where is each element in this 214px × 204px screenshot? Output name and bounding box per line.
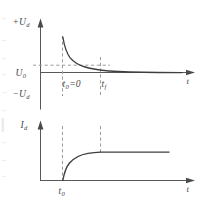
figure-container: +Ud U0 −Ud t0=0 tf t Id bbox=[0, 0, 214, 204]
voltage-t0-tick-label: t0=0 bbox=[63, 78, 81, 90]
voltage-positive-axis-label: +Ud bbox=[13, 16, 31, 28]
voltage-negative-axis-label: −Ud bbox=[13, 88, 31, 100]
voltage-tf-tick-label: tf bbox=[102, 78, 108, 90]
current-plot: Id t0 t bbox=[20, 119, 196, 197]
voltage-x-axis-arrow-icon bbox=[186, 70, 195, 76]
current-t0-tick-label: t0 bbox=[59, 185, 66, 197]
current-x-axis-arrow-icon bbox=[186, 178, 195, 184]
voltage-u0-label: U0 bbox=[16, 67, 27, 79]
current-x-axis-label: t bbox=[187, 184, 190, 194]
voltage-decay-curve bbox=[63, 37, 182, 73]
waveform-figure: +Ud U0 −Ud t0=0 tf t Id bbox=[0, 0, 214, 204]
voltage-x-axis-label: t bbox=[187, 76, 190, 86]
scan-artifact-specks bbox=[2, 18, 7, 177]
current-rise-curve bbox=[63, 152, 101, 180]
current-y-axis-label: Id bbox=[20, 119, 29, 131]
voltage-plot: +Ud U0 −Ud t0=0 tf t bbox=[13, 16, 196, 110]
current-y-axis-arrow-icon bbox=[38, 121, 44, 130]
voltage-y-axis-arrow-icon bbox=[38, 19, 44, 28]
